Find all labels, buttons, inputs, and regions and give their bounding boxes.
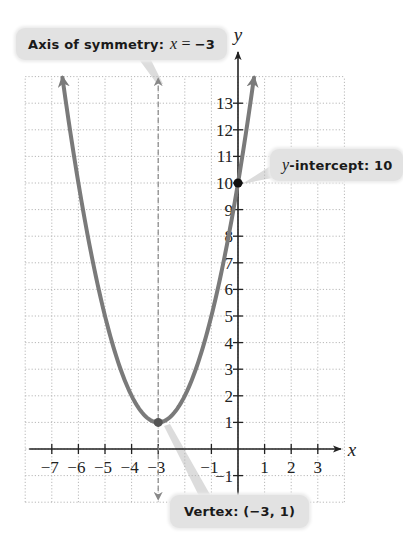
yint-callout-var: y	[282, 156, 289, 174]
x-tick-label: −5	[94, 458, 112, 477]
x-tick-label: 2	[287, 458, 296, 477]
x-tick-label: 3	[314, 458, 323, 477]
y-tick-label: 11	[217, 147, 233, 166]
y-tick-label: 10	[216, 174, 233, 193]
x-tick-label: 1	[260, 458, 269, 477]
vertex-callout-label: Vertex: (−3, 1)	[184, 504, 295, 519]
yint-callout-pointer	[242, 165, 272, 184]
yint-callout-label: -intercept: 10	[289, 158, 392, 173]
x-tick-label: −3	[147, 458, 165, 477]
axis-callout-var: x	[170, 35, 177, 53]
axis-of-symmetry-callout: Axis of symmetry: x = −3	[16, 28, 227, 60]
vertex-callout: Vertex: (−3, 1)	[170, 495, 309, 528]
vertex-point	[154, 418, 163, 427]
x-tick-label: −7	[41, 458, 60, 477]
y-tick-label: 12	[216, 121, 233, 140]
y-intercept-callout: y -intercept: 10	[270, 149, 403, 181]
y-tick-label: 4	[225, 334, 234, 353]
y-tick-label: 5	[225, 307, 234, 326]
y-intercept-point	[234, 179, 243, 188]
axis-callout-pointer	[138, 58, 163, 84]
y-tick-label: 3	[225, 360, 234, 379]
y-tick-label: −1	[215, 467, 233, 486]
y-axis-label: y	[232, 24, 243, 45]
y-tick-label: 6	[225, 280, 234, 299]
y-tick-label: 1	[225, 413, 234, 432]
y-tick-label: 2	[225, 387, 234, 406]
x-tick-label: −6	[67, 458, 85, 477]
axis-callout-label: Axis of symmetry:	[28, 37, 164, 52]
y-tick-label: 13	[216, 94, 233, 113]
axis-callout-op: =	[181, 35, 190, 53]
axis-callout-value: −3	[195, 37, 215, 52]
x-tick-label: −4	[121, 458, 140, 477]
x-axis-label: x	[347, 439, 357, 460]
